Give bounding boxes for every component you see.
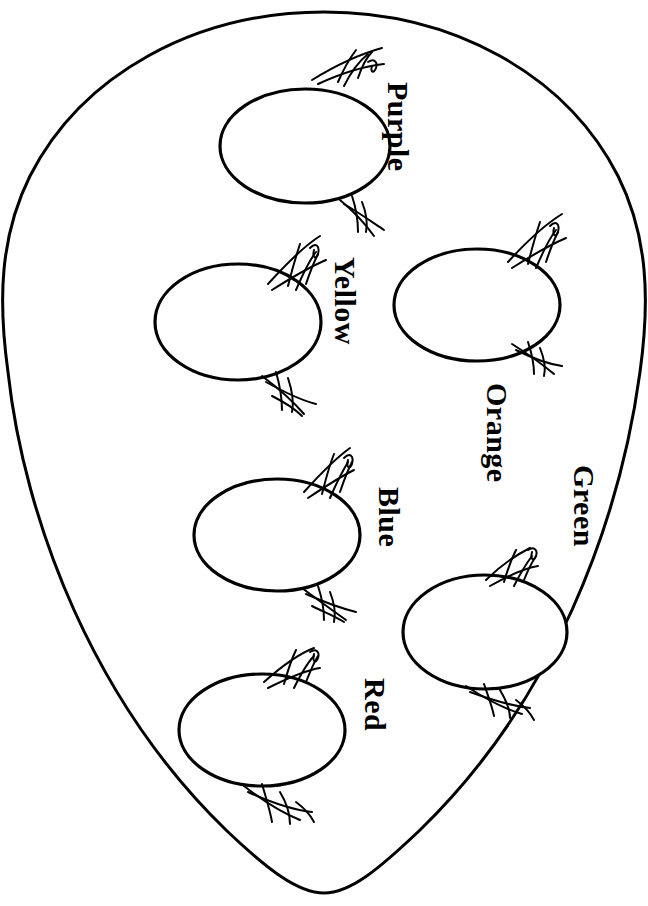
egg-orange-oval	[394, 249, 560, 361]
coloring-page: Purple Yellow Orange Blue Green Red	[0, 0, 648, 906]
coloring-artboard	[0, 0, 648, 906]
egg-label-red: Red	[358, 678, 392, 731]
egg-blue-oval	[194, 479, 360, 591]
egg-label-green: Green	[567, 465, 601, 547]
egg-label-orange: Orange	[480, 383, 514, 483]
egg-label-purple: Purple	[381, 82, 415, 172]
egg-label-yellow: Yellow	[328, 257, 362, 345]
egg-green-oval	[403, 575, 567, 689]
egg-label-blue: Blue	[372, 487, 406, 547]
egg-yellow-oval	[155, 264, 321, 380]
egg-purple-oval	[220, 89, 390, 203]
egg-red-oval	[179, 674, 345, 786]
